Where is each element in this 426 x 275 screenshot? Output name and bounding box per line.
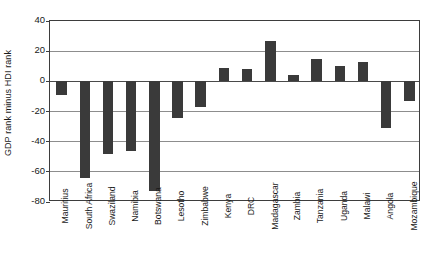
gdp-hdi-rank-bar-chart: GDP rank minus HDI rank 40200-20-40-60-8… xyxy=(0,0,426,275)
x-axis-tick-label: Mozambique xyxy=(373,204,426,274)
bar xyxy=(80,81,91,178)
bar xyxy=(242,69,253,81)
bar xyxy=(335,66,346,81)
y-axis-tick-label: -20 xyxy=(31,106,45,116)
y-axis-tick-label: 0 xyxy=(40,75,45,85)
bar xyxy=(311,59,322,82)
bar xyxy=(265,41,276,82)
bar xyxy=(219,68,230,82)
bar xyxy=(149,81,160,191)
x-axis-tick-label-text: Mozambique xyxy=(408,181,418,230)
x-axis-tick-labels: MauritiusSouth AfricaSwazilandNamibiaBot… xyxy=(49,202,420,275)
y-axis-tick-label: -40 xyxy=(31,136,45,146)
bar xyxy=(288,75,299,81)
y-axis-tick-label: 20 xyxy=(34,45,45,55)
bar xyxy=(381,81,392,128)
bar xyxy=(358,62,369,82)
bar xyxy=(404,81,415,101)
y-axis-title-text: GDP rank minus HDI rank xyxy=(3,49,13,155)
bar xyxy=(126,81,137,150)
bar xyxy=(195,81,206,107)
bar xyxy=(56,81,67,95)
y-axis-tick-label: -60 xyxy=(31,166,45,176)
bar xyxy=(172,81,183,117)
bar xyxy=(103,81,114,153)
bars-layer xyxy=(50,21,419,200)
y-axis-tick-label: 40 xyxy=(34,15,45,25)
plot-area xyxy=(49,20,420,201)
